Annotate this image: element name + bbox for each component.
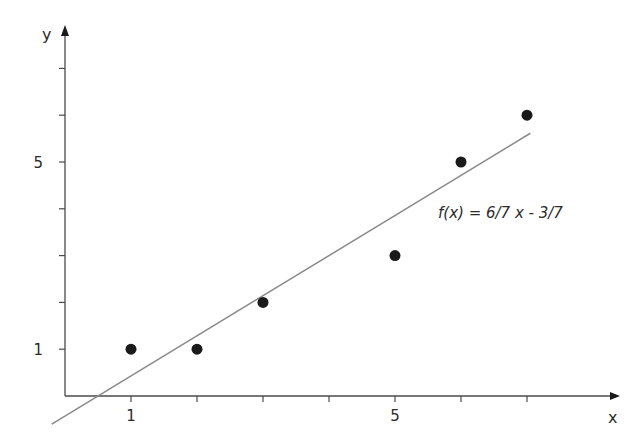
scatter-plot: 1515 x y f(x) = 6/7 x - 3/7	[0, 0, 643, 447]
y-tick-label: 5	[33, 154, 43, 172]
y-axis-label: y	[42, 25, 51, 44]
x-tick-label: 5	[390, 407, 400, 425]
data-point	[258, 297, 269, 308]
data-point	[522, 110, 533, 121]
x-axis-arrow-icon	[610, 392, 620, 400]
equation-annotation: f(x) = 6/7 x - 3/7	[438, 204, 563, 222]
chart-container: 1515 x y f(x) = 6/7 x - 3/7	[0, 0, 643, 447]
x-axis-label: x	[608, 408, 617, 427]
y-axis-arrow-icon	[61, 25, 69, 36]
ticks: 1515	[33, 68, 527, 425]
regression-line	[52, 133, 531, 424]
data-points	[126, 110, 533, 355]
data-point	[126, 344, 137, 355]
data-point	[456, 157, 467, 168]
y-tick-label: 1	[33, 341, 43, 359]
x-tick-label: 1	[126, 407, 136, 425]
data-point	[192, 344, 203, 355]
regression-line-path	[52, 133, 531, 424]
data-point	[390, 250, 401, 261]
